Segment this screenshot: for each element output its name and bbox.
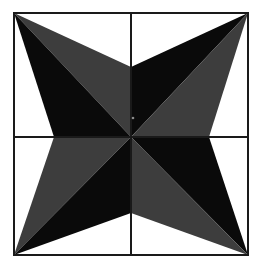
figure-container: Four-Pointed Pinwheel Star A four-pointe… [0,0,260,269]
center-speck-dot [132,117,135,120]
star-figure-svg: Four-Pointed Pinwheel Star A four-pointe… [0,0,260,269]
